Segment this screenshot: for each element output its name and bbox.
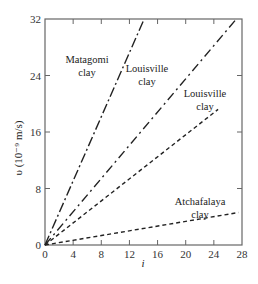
x-tick-label: 20 — [180, 248, 192, 260]
plot-axes: 048121620242808162432 — [30, 13, 248, 260]
x-tick-label: 4 — [70, 248, 76, 260]
data-lines — [45, 19, 238, 245]
x-tick-label: 8 — [99, 248, 105, 260]
x-axis-title: i — [141, 257, 144, 269]
series-label: Louisville — [126, 63, 169, 74]
annotations: MatagomiclayLouisvilleclayLouisvilleclay… — [65, 54, 226, 220]
y-tick-label: 16 — [30, 126, 42, 138]
series-label: clay — [78, 67, 96, 78]
x-tick-label: 28 — [237, 248, 249, 260]
x-tick-label: 12 — [124, 248, 135, 260]
series-line — [45, 109, 218, 245]
series-label: clay — [196, 101, 214, 112]
series-label: Matagomi — [65, 54, 108, 65]
series-line — [45, 19, 144, 245]
series-label: clay — [191, 209, 209, 220]
x-tick-label: 16 — [152, 248, 164, 260]
chart: 048121620242808162432 MatagomiclayLouisv… — [0, 0, 258, 284]
x-tick-label: 0 — [42, 248, 48, 260]
series-label: Atchafalaya — [175, 196, 226, 207]
y-tick-label: 8 — [36, 183, 42, 195]
x-tick-label: 24 — [208, 248, 220, 260]
y-tick-label: 24 — [30, 70, 42, 82]
y-tick-label: 0 — [36, 239, 42, 251]
series-label: Louisville — [184, 88, 227, 99]
series-line — [45, 213, 238, 245]
y-axis-title: υ (10⁻⁹ m/s) — [12, 120, 25, 175]
series-label: clay — [138, 76, 156, 87]
y-tick-label: 32 — [30, 13, 41, 25]
